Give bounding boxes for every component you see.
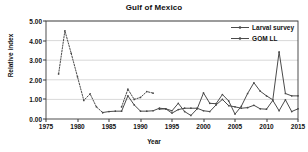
data-point: [266, 95, 268, 97]
data-point: [291, 111, 293, 113]
data-point: [171, 112, 173, 114]
data-point: [215, 104, 217, 106]
data-point: [177, 109, 179, 111]
data-point: [140, 110, 142, 112]
data-point: [171, 110, 173, 112]
data-point: [108, 111, 110, 113]
data-point: [285, 93, 287, 95]
data-point: [146, 110, 148, 112]
data-point: [234, 113, 236, 115]
y-tick-mark: [43, 40, 46, 41]
x-tick-mark: [140, 119, 141, 122]
data-point: [291, 95, 293, 97]
data-point: [121, 106, 123, 108]
data-point: [259, 108, 261, 110]
data-point: [278, 51, 280, 53]
data-point: [203, 92, 205, 94]
x-tick-label: 1980: [70, 123, 84, 130]
data-point: [121, 110, 123, 112]
data-point: [278, 110, 280, 112]
y-tick-mark: [43, 21, 46, 22]
x-tick-label: 2005: [228, 123, 242, 130]
data-point: [102, 112, 104, 114]
series-line: [59, 31, 103, 113]
data-point: [190, 107, 192, 109]
data-point: [253, 82, 255, 84]
y-tick-label: 5.00: [29, 18, 42, 25]
x-tick-mark: [172, 119, 173, 122]
y-axis-label: Relative index: [7, 20, 14, 92]
series-line: [122, 89, 154, 107]
x-tick-label: 2000: [196, 123, 210, 130]
data-point: [127, 88, 129, 90]
x-tick-label: 1985: [102, 123, 116, 130]
legend-item-gom-ll[interactable]: GOM LL: [231, 35, 294, 42]
data-point: [196, 107, 198, 109]
data-point: [127, 95, 129, 97]
data-point: [140, 97, 142, 99]
data-point: [70, 52, 72, 54]
data-point: [165, 108, 167, 110]
data-point: [247, 107, 249, 109]
chart-title: Gulf of Mexico: [0, 3, 308, 12]
x-tick-label: 2010: [259, 123, 273, 130]
data-point: [209, 111, 211, 113]
data-point: [89, 93, 91, 95]
data-point: [203, 110, 205, 112]
chart-figure: Gulf of Mexico Relative index Year Larva…: [0, 0, 308, 152]
legend-swatch-1: [231, 24, 249, 31]
data-point: [114, 110, 116, 112]
x-tick-label: 1975: [39, 123, 53, 130]
data-point: [259, 90, 261, 92]
legend-item-larval-survey[interactable]: Larval survey: [231, 24, 294, 31]
plot-area: Larval surveyGOM LL 0.001.002.003.004.00…: [46, 21, 298, 119]
x-tick-mark: [109, 119, 110, 122]
legend-label: GOM LL: [252, 35, 277, 42]
data-point: [64, 30, 66, 32]
data-point: [285, 99, 287, 101]
data-point: [83, 100, 85, 102]
legend-label: Larval survey: [252, 24, 294, 31]
x-tick-label: 2015: [291, 123, 305, 130]
y-tick-mark: [43, 60, 46, 61]
data-point: [159, 108, 161, 110]
data-point: [77, 76, 79, 78]
data-point: [152, 110, 154, 112]
data-point: [297, 95, 299, 97]
data-point: [222, 99, 224, 101]
y-tick-label: 0.00: [29, 116, 42, 123]
data-point: [247, 93, 249, 95]
y-tick-label: 3.00: [29, 57, 42, 64]
data-point: [228, 105, 230, 107]
data-point: [184, 111, 186, 113]
y-tick-label: 4.00: [29, 37, 42, 44]
y-tick-label: 1.00: [29, 96, 42, 103]
data-point: [222, 94, 224, 96]
data-point: [297, 108, 299, 110]
data-point: [272, 100, 274, 102]
data-point: [190, 115, 192, 117]
y-tick-mark: [43, 79, 46, 80]
x-tick-mark: [298, 119, 299, 122]
data-point: [266, 108, 268, 110]
x-tick-label: 1995: [165, 123, 179, 130]
data-point: [184, 107, 186, 109]
data-point: [240, 105, 242, 107]
data-point: [133, 104, 135, 106]
data-point: [240, 107, 242, 109]
chart-legend: Larval surveyGOM LL: [231, 24, 294, 42]
x-tick-mark: [77, 119, 78, 122]
data-point: [228, 100, 230, 102]
x-tick-mark: [46, 119, 47, 122]
x-tick-mark: [203, 119, 204, 122]
x-tick-label: 1990: [133, 123, 147, 130]
data-point: [152, 92, 154, 94]
x-axis-label: Year: [0, 138, 308, 145]
data-point: [209, 102, 211, 104]
data-point: [177, 102, 179, 104]
data-point: [253, 104, 255, 106]
data-point: [234, 106, 236, 108]
y-tick-mark: [43, 99, 46, 100]
data-point: [146, 91, 148, 93]
x-tick-mark: [235, 119, 236, 122]
